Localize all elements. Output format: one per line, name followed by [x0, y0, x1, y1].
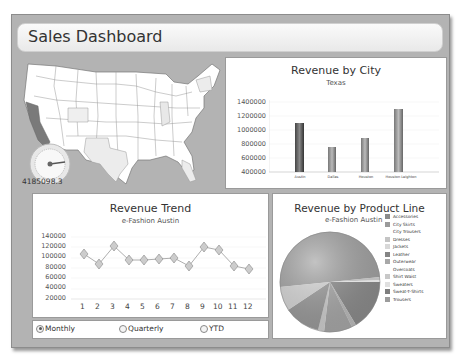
x-label: Houston Leighton	[376, 175, 426, 179]
x-label: Dallas	[318, 175, 348, 179]
x-label: Austin	[285, 175, 315, 179]
legend-item: Jackets	[385, 244, 408, 249]
chart-subtitle: e-Fashion Austin	[33, 217, 268, 225]
legend-item: Accessories	[385, 214, 418, 219]
header-bar: Sales Dashboard	[17, 23, 443, 52]
chart-title: Revenue by City	[226, 64, 446, 77]
revenue-trend-panel: Revenue Trend e-Fashion Austin 140000 12…	[32, 193, 269, 318]
trend-line-plot	[71, 234, 266, 302]
radio-button[interactable]	[200, 325, 208, 333]
gauge-value: 4185098.3	[22, 177, 63, 186]
revenue-by-product-panel: Revenue by Product Line e-Fashion Austin…	[272, 193, 447, 339]
chart-title: Revenue Trend	[33, 202, 268, 215]
legend-item: Shirt Waist	[385, 274, 416, 279]
legend-item: Sweaters	[385, 282, 413, 287]
bar-dallas	[328, 147, 336, 172]
legend-item: City Skirts	[385, 222, 415, 227]
bar-austin	[295, 123, 304, 172]
legend-item: Leather	[385, 252, 409, 257]
bar-houston-leighton	[394, 109, 403, 172]
page-title: Sales Dashboard	[28, 27, 162, 46]
radio-button[interactable]	[36, 325, 44, 333]
legend-item: Dresses	[385, 237, 410, 242]
legend-item: City Trousers	[385, 229, 421, 234]
chart-subtitle: Texas	[226, 79, 446, 87]
city-bar-plot	[269, 100, 439, 178]
state-florida	[182, 160, 196, 182]
legend-item: Sweat-T-Shirts	[385, 289, 423, 294]
radio-monthly[interactable]: Monthly	[36, 324, 75, 333]
state-colorado	[68, 108, 88, 122]
chart-subtitle: e-Fashion Austin	[325, 216, 382, 224]
legend-item: Trousers	[385, 297, 411, 302]
period-selector: Monthly Quarterly YTD	[32, 320, 269, 339]
radio-quarterly[interactable]: Quarterly	[119, 324, 164, 333]
product-pie	[277, 229, 383, 335]
legend-item: Overcoats	[385, 267, 415, 272]
chart-title: Revenue by Product Line	[273, 202, 446, 214]
us-map[interactable]: 4185098.3	[16, 56, 222, 188]
revenue-by-city-panel: Revenue by City Texas 1400000 1200000 10…	[225, 57, 447, 189]
bar-houston	[361, 138, 369, 172]
state-illinois	[160, 102, 170, 126]
radio-ytd[interactable]: YTD	[200, 324, 224, 333]
radio-button[interactable]	[119, 325, 127, 333]
legend-item: Outerwear	[385, 259, 416, 264]
